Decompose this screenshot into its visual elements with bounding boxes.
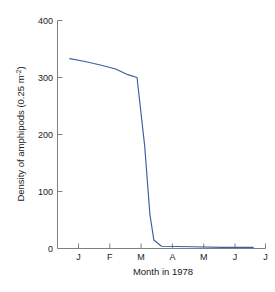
y-tick-label-400: 400 — [38, 16, 53, 26]
y-axis-title: Density of amphipods (0.25 m-2) — [15, 66, 27, 201]
svg-text:Density of amphipods (0.25 m-2: Density of amphipods (0.25 m-2) — [15, 66, 27, 201]
x-tick-label-apr: A — [169, 252, 175, 262]
y-tick-label-300: 300 — [38, 73, 53, 83]
x-tick-label-jun: J — [233, 252, 238, 262]
y-tick-label-100: 100 — [38, 187, 53, 197]
x-axis-tick-labels: J F M A M J J — [76, 252, 268, 262]
x-tick-label-mar: M — [137, 252, 145, 262]
x-axis-title: Month in 1978 — [133, 266, 193, 277]
y-axis-tick-labels: 0 100 200 300 400 — [38, 16, 53, 254]
y-axis-title-suffix: ) — [15, 66, 26, 69]
amphipod-density-line-chart: 0 100 200 300 400 J F M A M J J Month in… — [0, 0, 275, 292]
y-tick-label-200: 200 — [38, 130, 53, 140]
y-axis-title-main: Density of amphipods (0.25 m — [15, 75, 26, 201]
x-tick-label-may: M — [200, 252, 208, 262]
x-tick-label-jan: J — [76, 252, 81, 262]
data-series-line — [70, 59, 254, 248]
y-axis-ticks — [58, 21, 63, 249]
y-tick-label-0: 0 — [48, 244, 53, 254]
x-tick-label-feb: F — [107, 252, 113, 262]
x-tick-label-jul: J — [263, 252, 268, 262]
